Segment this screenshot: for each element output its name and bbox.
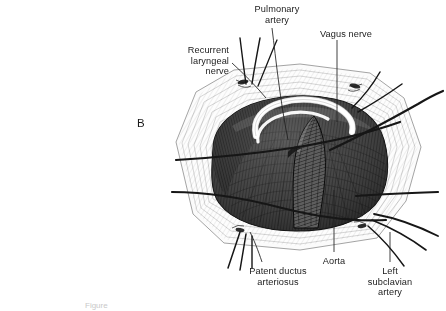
label-patent-ductus-arteriosus: Patent ductus arteriosus	[249, 266, 306, 287]
label-recurrent-laryngeal-nerve: Recurrent laryngeal nerve	[188, 45, 229, 77]
label-aorta: Aorta	[323, 256, 345, 267]
panel-letter: B	[137, 117, 145, 129]
label-left-subclavian-artery: Left subclavian artery	[368, 266, 412, 298]
label-vagus-nerve: Vagus nerve	[320, 29, 372, 40]
caption-fragment: Figure	[85, 301, 155, 311]
label-pulmonary-artery: Pulmonary artery	[255, 4, 300, 25]
